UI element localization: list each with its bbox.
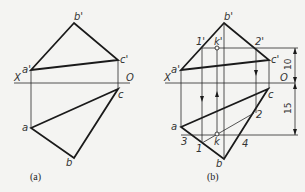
label-3: 3 bbox=[181, 136, 187, 147]
label-c: c bbox=[118, 89, 124, 100]
arrow-down-icon bbox=[254, 70, 258, 76]
label-a-prime: a' bbox=[22, 64, 31, 75]
dim-arrow-icon bbox=[293, 129, 297, 135]
label-2: 2 bbox=[256, 109, 262, 120]
dim-arrow-icon bbox=[293, 48, 297, 54]
label-1: 1 bbox=[196, 143, 202, 154]
caption-a: (a) bbox=[30, 171, 41, 183]
label-c-prime: c' bbox=[120, 54, 128, 65]
label-origin: O bbox=[280, 72, 288, 83]
top-view-triangle bbox=[31, 89, 118, 158]
label-b-prime: b' bbox=[224, 11, 233, 22]
label-c: c bbox=[268, 89, 274, 100]
label-b-prime: b' bbox=[74, 11, 83, 22]
front-view-triangle bbox=[31, 23, 118, 70]
dim-arrow-icon bbox=[293, 77, 297, 83]
label-a-prime: a' bbox=[171, 64, 180, 75]
dimension-15: 15 bbox=[283, 103, 293, 114]
label-b: b bbox=[66, 157, 72, 168]
label-a: a bbox=[171, 121, 177, 132]
dim-arrow-icon bbox=[293, 83, 297, 89]
label-2-prime: 2' bbox=[255, 36, 264, 47]
arrow-down-icon bbox=[200, 96, 204, 102]
dimension-10: 10 bbox=[283, 58, 293, 70]
label-k-prime: k' bbox=[214, 36, 223, 47]
label-4: 4 bbox=[242, 138, 248, 149]
caption-b: (b) bbox=[207, 171, 219, 183]
label-1-prime: 1' bbox=[196, 36, 205, 47]
projection-diagram: b' a' c' X O c a b (a) bbox=[0, 0, 305, 192]
label-origin: O bbox=[126, 72, 134, 83]
label-a: a bbox=[22, 122, 28, 133]
label-b: b bbox=[216, 158, 222, 169]
label-x-axis: X bbox=[13, 72, 22, 83]
figure-a: b' a' c' X O c a b (a) bbox=[13, 11, 134, 183]
figure-b: 10 15 b' a' c' X O 1' k' 2' c a 2 3 1 k … bbox=[163, 11, 298, 183]
top-view-triangle bbox=[181, 89, 268, 159]
label-k: k bbox=[214, 136, 221, 147]
arrow-up-icon bbox=[215, 91, 219, 97]
label-x-axis: X bbox=[163, 72, 172, 83]
label-c-prime: c' bbox=[271, 54, 279, 65]
